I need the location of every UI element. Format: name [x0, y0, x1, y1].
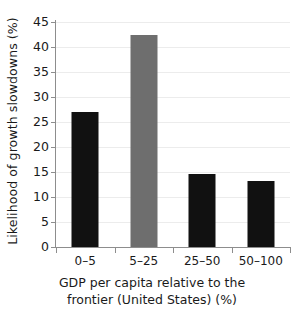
y-tick-label: 40	[19, 41, 49, 54]
bar	[189, 174, 216, 247]
bars-group	[56, 22, 290, 247]
y-tick-label: 0	[19, 241, 49, 254]
bar-chart-figure: Likelihood of growth slowdowns (%) 05101…	[0, 0, 304, 315]
y-tick-mark	[51, 22, 56, 23]
x-axis-title-line-2: frontier (United States) (%)	[0, 291, 304, 308]
plot-area	[56, 22, 290, 247]
x-axis-title: GDP per capita relative to the frontier …	[0, 274, 304, 308]
y-tick-mark	[51, 47, 56, 48]
x-tick-mark	[173, 248, 174, 253]
x-tick-mark	[290, 248, 291, 253]
bar-slot	[115, 22, 174, 247]
y-tick-mark	[51, 72, 56, 73]
bar	[247, 181, 274, 248]
x-tick-mark	[232, 248, 233, 253]
bar	[130, 35, 157, 248]
y-tick-label: 10	[19, 191, 49, 204]
y-tick-label: 30	[19, 91, 49, 104]
x-tick-label: 50–100	[232, 255, 291, 267]
y-tick-mark	[51, 222, 56, 223]
y-tick-label: 25	[19, 116, 49, 129]
y-axis-spine	[55, 20, 56, 248]
y-tick-label: 20	[19, 141, 49, 154]
y-tick-label: 15	[19, 166, 49, 179]
bar-slot	[173, 22, 232, 247]
y-tick-mark	[51, 172, 56, 173]
bar-slot	[56, 22, 115, 247]
x-tick-label: 25–50	[173, 255, 232, 267]
bar	[72, 112, 99, 247]
y-tick-label: 5	[19, 216, 49, 229]
y-tick-label: 45	[19, 16, 49, 29]
y-tick-label: 35	[19, 66, 49, 79]
y-tick-mark	[51, 97, 56, 98]
x-axis-title-line-1: GDP per capita relative to the	[0, 274, 304, 291]
y-tick-mark	[51, 122, 56, 123]
bar-slot	[232, 22, 291, 247]
x-tick-mark	[115, 248, 116, 253]
x-tick-label: 0–5	[56, 255, 115, 267]
y-tick-mark	[51, 197, 56, 198]
x-tick-label: 5–25	[115, 255, 174, 267]
x-tick-mark	[56, 248, 57, 253]
y-tick-mark	[51, 147, 56, 148]
